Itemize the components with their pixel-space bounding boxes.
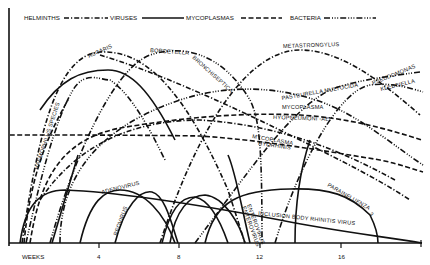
label-reovirus: REOVIRUS: [112, 205, 128, 236]
label-hyopneumoniae: HYOPNEUMONI -AE: [273, 114, 329, 122]
label-metastrongylus: METASTRONGYLUS: [283, 41, 340, 49]
label-mycoplasma-1: MYCOPLASMA: [282, 104, 324, 110]
curve-bordetella: [50, 51, 262, 243]
x-tick-label-16: 16: [338, 253, 345, 260]
label-bordetella: BORDETELLA: [150, 47, 189, 56]
disease-timeline-chart: WEEKS 4 8 12 16 HELMINTHS VIRUSES MYCOPL…: [0, 0, 430, 265]
label-parainfluenza: PARAINFLUENZA: [327, 182, 372, 211]
curve-inclusion-body-rhinitis: [20, 190, 422, 243]
label-bronchiseptica: BRONCHISEPTICA: [191, 54, 234, 94]
legend: HELMINTHS VIRUSES MYCOPLASMAS BACTERIA: [24, 14, 376, 21]
x-tick-label-8: 8: [177, 253, 181, 260]
curve-pasteurella: [60, 89, 423, 243]
label-ascaris: ASCARIS: [87, 43, 113, 59]
x-axis-label: WEEKS: [22, 253, 44, 260]
label-parainfluenza-3: 3: [368, 211, 375, 217]
legend-helminths-label: HELMINTHS: [24, 14, 60, 21]
x-tick-label-12: 12: [256, 253, 263, 260]
curve-virus-steep-d: [295, 140, 310, 243]
legend-bacteria-label: BACTERIA: [290, 14, 322, 21]
legend-viruses-label: VIRUSES: [110, 14, 137, 21]
legend-mycoplasmas-label: MYCOPLASMAS: [186, 14, 234, 21]
x-tick-label-4: 4: [97, 253, 101, 260]
curve-haemophilus: [26, 78, 165, 244]
